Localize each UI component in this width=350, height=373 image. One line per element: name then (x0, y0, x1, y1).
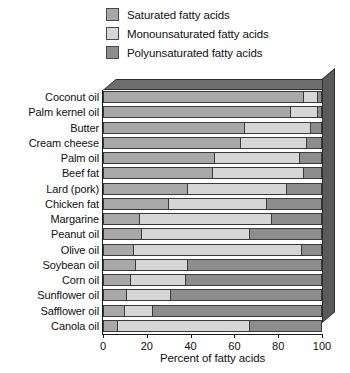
stacked-bar (103, 305, 322, 317)
x-axis-tick (191, 334, 192, 338)
bar-segment-poly (311, 122, 322, 134)
bar-row (103, 105, 322, 120)
y-axis-label: Sunflower oil (37, 289, 99, 301)
bar-segment-poly (153, 305, 322, 317)
legend: Saturated fatty acidsMonounsaturated fat… (0, 5, 350, 62)
x-axis-tick-label: 100 (313, 340, 331, 352)
y-axis-label: Beef fat (62, 167, 99, 179)
bar-segment-sat (103, 152, 215, 164)
bar-segment-sat (103, 122, 245, 134)
bar-row (103, 288, 322, 303)
bar-row (103, 319, 322, 334)
stacked-bar (103, 167, 322, 179)
bar-segment-mono (245, 122, 311, 134)
x-axis-tick (234, 334, 235, 338)
bar-segment-mono (134, 244, 303, 256)
bar-row (103, 243, 322, 258)
stacked-bar (103, 274, 322, 286)
bar-segment-poly (302, 244, 322, 256)
bar-segment-mono (142, 228, 249, 240)
legend-item-sat: Saturated fatty acids (0, 5, 350, 24)
bar-segment-sat (103, 228, 142, 240)
bar-segment-poly (250, 320, 322, 332)
y-axis-label: Corn oil (62, 274, 99, 286)
bar-segment-sat (103, 91, 304, 103)
plot-area (103, 90, 322, 334)
y-axis-label: Safflower oil (41, 305, 99, 317)
bar-segment-mono (304, 91, 317, 103)
x-axis-tick (103, 334, 104, 338)
stacked-bar (103, 213, 322, 225)
legend-swatch-sat (106, 8, 119, 21)
stacked-bar (103, 228, 322, 240)
y-axis-label: Soybean oil (43, 259, 99, 271)
y-axis-label: Butter (70, 122, 99, 134)
bar-segment-sat (103, 106, 291, 118)
bar-segment-sat (103, 259, 136, 271)
y-axis-label: Palm oil (61, 152, 99, 164)
bar-segment-sat (103, 183, 188, 195)
bar-segment-sat (103, 213, 140, 225)
bar-segment-poly (186, 274, 322, 286)
x-axis-tick-label: 60 (228, 340, 240, 352)
bar-row (103, 227, 322, 242)
y-axis-label: Peanut oil (51, 228, 99, 240)
legend-label-poly: Polyunsaturated fatty acids (127, 47, 262, 59)
bar-segment-poly (304, 167, 322, 179)
x-axis-tick-label: 0 (100, 340, 106, 352)
bar-segment-sat (103, 274, 131, 286)
stacked-bar (103, 198, 322, 210)
bar-segment-mono (169, 198, 268, 210)
bar-segment-mono (125, 305, 153, 317)
bar-segment-sat (103, 305, 125, 317)
bar-segment-poly (272, 213, 322, 225)
bar-row (103, 273, 322, 288)
bar-segment-poly (287, 183, 322, 195)
x-axis-tick-label: 80 (272, 340, 284, 352)
y-axis-label: Cream cheese (29, 137, 99, 149)
bar-segment-poly (267, 198, 322, 210)
stacked-bar (103, 106, 322, 118)
x-axis-tick (147, 334, 148, 338)
legend-swatch-mono (106, 27, 119, 40)
stacked-bar (103, 183, 322, 195)
bar-segment-mono (188, 183, 287, 195)
bar-segment-poly (318, 106, 322, 118)
bar-segment-poly (250, 228, 322, 240)
bar-segment-poly (171, 289, 322, 301)
bar-rows (103, 90, 322, 334)
bar-row (103, 166, 322, 181)
chart-area: 020406080100 Percent of fatty acids Coco… (0, 72, 350, 347)
stacked-bar (103, 289, 322, 301)
y-axis-label: Coconut oil (45, 91, 99, 103)
stacked-bar (103, 152, 322, 164)
bar-row (103, 121, 322, 136)
y-axis-label: Canola oil (51, 320, 99, 332)
bar-segment-mono (213, 167, 305, 179)
bar-segment-mono (241, 137, 307, 149)
bar-row (103, 136, 322, 151)
bar-segment-mono (127, 289, 171, 301)
y-axis-label: Palm kernel oil (28, 106, 99, 118)
chart-3d-right-face (322, 68, 335, 323)
bar-segment-sat (103, 320, 118, 332)
legend-swatch-poly (106, 46, 119, 59)
stacked-bar (103, 122, 322, 134)
stacked-bar (103, 259, 322, 271)
bar-row (103, 258, 322, 273)
legend-item-mono: Monounsaturated fatty acids (0, 24, 350, 43)
bar-segment-sat (103, 198, 169, 210)
stacked-bar (103, 320, 322, 332)
x-axis-title: Percent of fatty acids (103, 352, 322, 364)
bar-segment-mono (131, 274, 186, 286)
x-axis-tick (322, 334, 323, 338)
bar-segment-sat (103, 137, 241, 149)
bar-segment-mono (215, 152, 300, 164)
stacked-bar (103, 137, 322, 149)
y-axis-label: Chicken fat (45, 198, 99, 210)
bar-row (103, 212, 322, 227)
legend-label-sat: Saturated fatty acids (127, 9, 230, 21)
x-axis-tick-label: 20 (141, 340, 153, 352)
x-axis-line: 020406080100 (103, 334, 322, 335)
y-axis-label: Margarine (50, 213, 99, 225)
